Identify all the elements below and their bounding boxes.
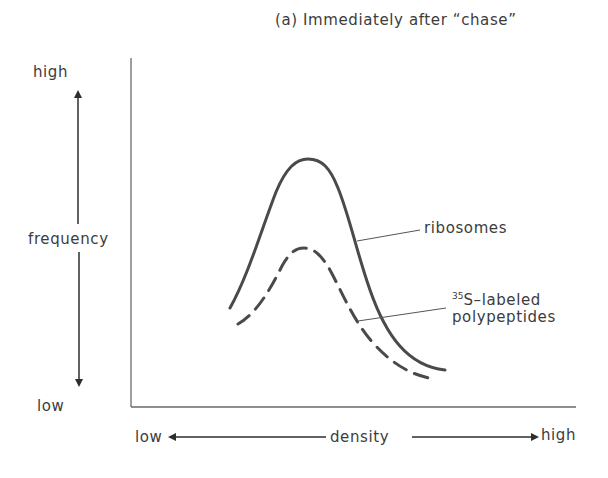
x-axis-high-label: high xyxy=(541,428,576,443)
isotope-superscript: 35 xyxy=(452,291,463,301)
y-axis-high-label: high xyxy=(33,65,68,80)
x-axis-low-label: low xyxy=(135,430,162,445)
x-axis-label: density xyxy=(330,430,389,445)
polypeptides-label: 35S–labeled polypeptides xyxy=(452,288,556,326)
ribosomes-leader-line xyxy=(357,230,420,241)
polypeptides-label-line2: polypeptides xyxy=(452,308,556,326)
polypeptides-leader-line xyxy=(358,308,446,321)
y-axis-label: frequency xyxy=(28,232,109,247)
polypeptides-label-line1: S–labeled xyxy=(463,291,540,309)
ribosomes-label: ribosomes xyxy=(424,221,507,236)
figure-title: (a) Immediately after “chase” xyxy=(275,13,517,28)
ribosomes-curve xyxy=(230,159,445,370)
density-gradient-figure: (a) Immediately after “chase” high frequ… xyxy=(0,0,608,478)
y-axis-low-label: low xyxy=(37,399,64,414)
